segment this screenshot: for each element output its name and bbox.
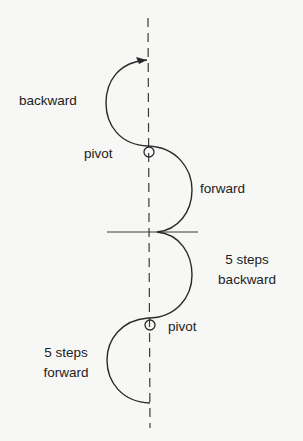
label-steps-forward-line2: forward — [31, 365, 101, 380]
label-steps-forward: 5 steps forward — [31, 345, 101, 380]
label-backward: backward — [19, 93, 77, 108]
forward-arc — [148, 146, 192, 232]
label-steps-backward-line2: backward — [207, 272, 287, 287]
label-steps-backward: 5 steps backward — [207, 252, 287, 287]
label-steps-backward-line1: 5 steps — [207, 252, 287, 267]
steps-forward-arc — [107, 318, 150, 403]
center-dashed-line — [148, 18, 150, 428]
backward-arc — [106, 60, 148, 146]
label-steps-forward-line1: 5 steps — [31, 345, 101, 360]
steps-backward-arc — [148, 232, 192, 318]
label-pivot-top: pivot — [84, 146, 113, 161]
label-pivot-bottom: pivot — [168, 319, 197, 334]
label-forward: forward — [200, 181, 245, 196]
arrowhead-icon — [136, 57, 147, 64]
